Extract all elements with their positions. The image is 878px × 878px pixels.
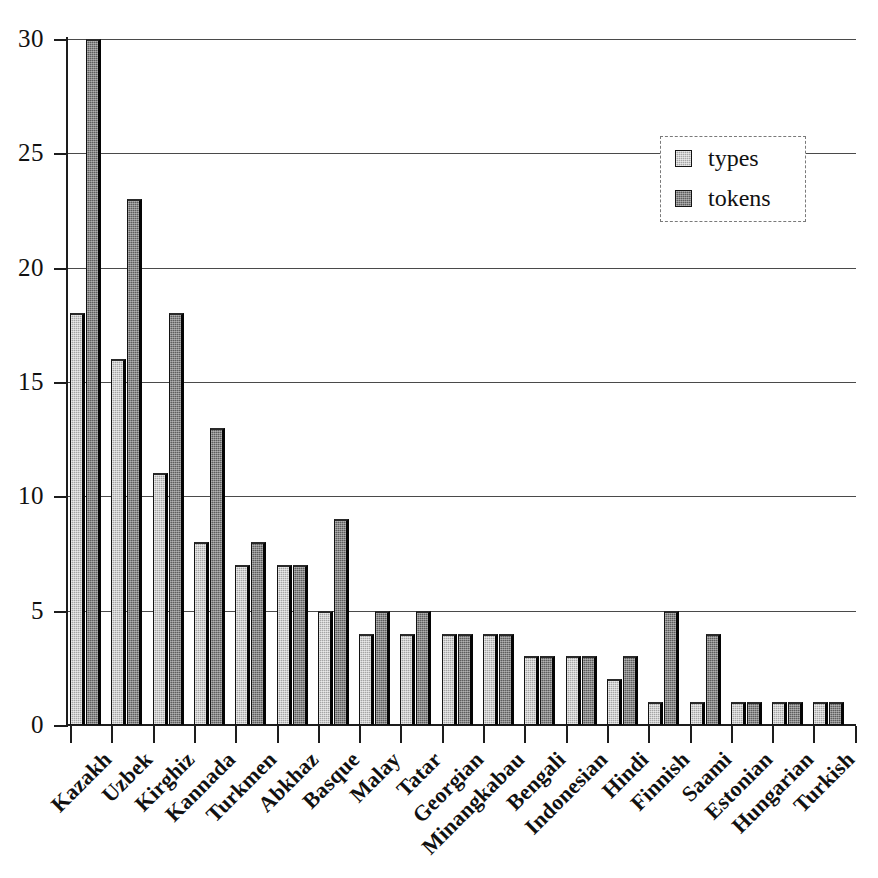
y-axis-tick [54, 153, 67, 155]
bar-group [400, 39, 434, 725]
bar-group [153, 39, 187, 725]
bar-group [607, 39, 641, 725]
bar-tokens[interactable] [127, 199, 142, 725]
legend-swatch-types-icon [675, 150, 692, 167]
y-axis-label: 20 [0, 255, 44, 280]
x-axis-tick [153, 726, 155, 743]
bar-group [566, 39, 600, 725]
bar-group [442, 39, 476, 725]
bar-tokens[interactable] [210, 428, 225, 725]
bar-group [235, 39, 269, 725]
y-axis-tick [54, 382, 67, 384]
y-axis-tick [54, 268, 67, 270]
legend-item-tokens[interactable]: tokens [675, 186, 771, 210]
x-axis-tick [524, 726, 526, 743]
y-axis-label: 25 [0, 140, 44, 165]
bar-types[interactable] [690, 702, 705, 725]
x-axis-tick [772, 726, 774, 743]
x-axis-tick [566, 726, 568, 743]
bar-chart: 051015202530 KazakhUzbekKirghizKannadaTu… [0, 0, 878, 878]
y-axis-tick [54, 611, 67, 613]
bar-types[interactable] [194, 542, 209, 725]
x-axis-tick [277, 726, 279, 743]
x-axis-tick [442, 726, 444, 743]
bar-tokens[interactable] [169, 313, 184, 725]
bar-group [70, 39, 104, 725]
y-axis-tick [54, 39, 67, 41]
bar-group [194, 39, 228, 725]
y-axis-label: 0 [0, 712, 44, 737]
x-axis-tick [194, 726, 196, 743]
legend-label-types: types [708, 146, 759, 170]
x-axis-tick [111, 726, 113, 743]
x-axis-tick [235, 726, 237, 743]
y-axis-tick [54, 725, 67, 727]
x-axis-tick-end [855, 726, 857, 743]
x-axis-tick [359, 726, 361, 743]
bar-group [524, 39, 558, 725]
x-axis-tick [318, 726, 320, 743]
bar-group [483, 39, 517, 725]
y-axis-tick [54, 496, 67, 498]
bar-group [813, 39, 847, 725]
legend-item-types[interactable]: types [675, 146, 759, 170]
legend-swatch-tokens-icon [675, 190, 692, 207]
bar-group [111, 39, 145, 725]
x-axis-tick [607, 726, 609, 743]
x-axis-tick [648, 726, 650, 743]
x-axis-tick [813, 726, 815, 743]
x-axis-tick [731, 726, 733, 743]
bar-group [318, 39, 352, 725]
bar-group [359, 39, 393, 725]
x-axis-tick [70, 726, 72, 743]
bar-tokens[interactable] [86, 39, 101, 725]
y-axis-label: 15 [0, 369, 44, 394]
bar-types[interactable] [442, 634, 457, 725]
bar-types[interactable] [483, 634, 498, 725]
x-axis-tick [400, 726, 402, 743]
bar-group [277, 39, 311, 725]
x-axis-tick [690, 726, 692, 743]
y-axis-label: 5 [0, 598, 44, 623]
legend-label-tokens: tokens [708, 186, 771, 210]
bar-types[interactable] [70, 313, 85, 725]
chart-legend: types tokens [660, 136, 806, 222]
bar-tokens[interactable] [251, 542, 266, 725]
x-axis-tick [483, 726, 485, 743]
bar-types[interactable] [111, 359, 126, 725]
y-axis-label: 30 [0, 26, 44, 51]
y-axis-label: 10 [0, 483, 44, 508]
bar-types[interactable] [153, 473, 168, 725]
